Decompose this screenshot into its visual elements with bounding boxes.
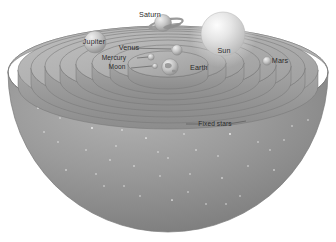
label-venus: Venus bbox=[119, 43, 140, 52]
label-moon: Moon bbox=[109, 63, 126, 70]
label-mercury: Mercury bbox=[102, 54, 127, 62]
label-saturn: Saturn bbox=[139, 10, 161, 19]
label-jupiter: Jupiter bbox=[83, 37, 106, 46]
sun-body bbox=[189, 0, 257, 68]
label-fixed-stars: Fixed stars bbox=[198, 120, 232, 127]
moon-body bbox=[152, 63, 157, 68]
label-sun: Sun bbox=[217, 46, 230, 55]
label-mars: Mars bbox=[272, 56, 289, 65]
orbital-spheres bbox=[18, 27, 318, 129]
mars-body bbox=[263, 57, 271, 65]
mercury-body bbox=[148, 54, 154, 60]
diagram-canvas: Saturn Jupiter Venus Mercury Moon Earth … bbox=[0, 0, 336, 242]
label-earth: Earth bbox=[190, 63, 208, 72]
geocentric-model-figure: Saturn Jupiter Venus Mercury Moon Earth … bbox=[0, 0, 336, 242]
venus-body bbox=[172, 45, 182, 55]
earth-body bbox=[162, 59, 178, 75]
